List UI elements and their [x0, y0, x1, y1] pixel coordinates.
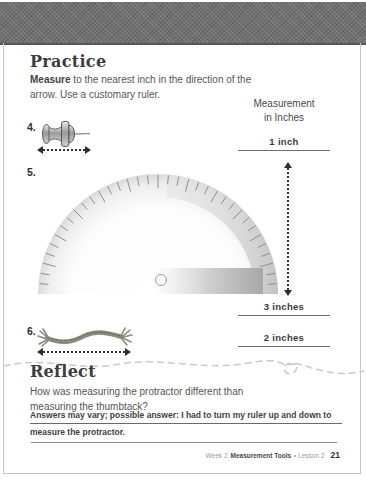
practice-heading: Practice — [30, 52, 106, 71]
item4-number: 4. — [27, 121, 36, 133]
protractor-image — [35, 164, 283, 296]
instructions-line2: arrow. Use a customary ruler. — [30, 88, 251, 103]
reflect-answer-line1: Answers may vary; possible answer: I had… — [30, 410, 342, 424]
reflect-answer: Answers may vary; possible answer: I had… — [30, 410, 342, 437]
footer-page-number: 21 — [331, 450, 340, 460]
item6-number: 6. — [27, 325, 36, 337]
reflect-answer-line2: measure the protractor. — [30, 427, 342, 437]
page-top-banner — [0, 2, 366, 45]
reflect-heading: Reflect — [30, 362, 96, 381]
page-footer: Week 2 Measurement Tools • Lesson 2 21 — [206, 450, 340, 460]
measurement-header-line1: Measurement — [238, 97, 330, 111]
workbook-page: Practice Measure to the nearest inch in … — [0, 0, 366, 481]
footer-lesson: • Lesson 2 — [294, 452, 324, 459]
footer-program: Measurement Tools — [231, 452, 292, 459]
practice-instructions: Measure to the nearest inch in the direc… — [30, 73, 251, 102]
item4-answer: 1 inch — [238, 136, 330, 151]
instructions-bold-word: Measure — [30, 74, 71, 85]
item6-answer: 2 inches — [238, 332, 330, 347]
measurement-header-line2: in Inches — [238, 111, 330, 125]
string-image — [37, 325, 133, 351]
blank-answer-line — [31, 442, 337, 443]
item4-measure-arrow — [40, 149, 88, 151]
instructions-line1: Measure to the nearest inch in the direc… — [30, 73, 251, 88]
reflect-question-line1: How was measuring the protractor differe… — [30, 384, 243, 399]
item6-measure-arrow — [40, 351, 128, 353]
footer-week: Week 2 — [206, 452, 228, 459]
measurement-column-header: Measurement in Inches — [238, 97, 330, 124]
item5-measure-arrow — [287, 165, 289, 293]
item5-answer: 3 inches — [238, 301, 330, 316]
